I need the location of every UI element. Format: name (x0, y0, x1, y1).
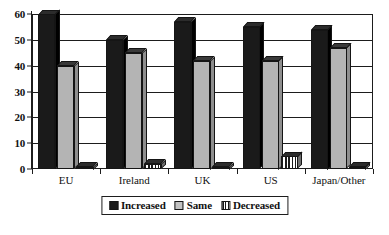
y-axis: 0102030405060 (0, 14, 32, 169)
bar-side-face (210, 56, 215, 169)
bar-side-face (278, 56, 283, 169)
y-tick-mark-30 (27, 91, 32, 92)
bar-group-us (237, 14, 305, 169)
x-tick-label-us: US (264, 174, 278, 186)
bar-front-face (281, 156, 298, 169)
bar-increased-uk (174, 22, 191, 169)
swatch-decreased-icon (221, 201, 230, 210)
bar-front-face (125, 53, 142, 169)
plot-area (32, 14, 373, 169)
y-tick-mark-60 (27, 14, 32, 15)
bar-front-face (243, 27, 260, 169)
y-tick-label-0: 0 (20, 163, 25, 175)
bar-same-ireland (125, 53, 142, 169)
y-tick-mark-50 (27, 39, 32, 40)
bars-layer (32, 14, 373, 169)
bar-top-face (281, 152, 303, 157)
bar-increased-japan-other (311, 30, 328, 170)
bar-front-face (330, 48, 347, 169)
bar-front-face (311, 30, 328, 170)
legend-label-same: Same (187, 199, 212, 211)
bar-group-ireland (100, 14, 168, 169)
legend-item-same[interactable]: Same (175, 199, 212, 211)
bar-same-japan-other (330, 48, 347, 169)
y-tick-label-10: 10 (14, 137, 25, 149)
bar-side-face (74, 61, 79, 169)
y-tick-label-50: 50 (14, 34, 25, 46)
y-tick-label-40: 40 (14, 60, 25, 72)
legend-item-increased[interactable]: Increased (109, 199, 166, 211)
bar-side-face (346, 43, 351, 169)
bar-same-eu (57, 66, 74, 169)
y-tick-label-60: 60 (14, 8, 25, 20)
bar-decreased-us (281, 156, 298, 169)
x-tick-label-ireland: Ireland (119, 174, 150, 186)
bar-group-uk (168, 14, 236, 169)
x-tick-mark-0 (32, 169, 33, 174)
chart-legend: IncreasedSameDecreased (101, 196, 288, 215)
bar-increased-ireland (106, 40, 123, 169)
x-tick-label-eu: EU (59, 174, 74, 186)
y-tick-mark-40 (27, 65, 32, 66)
bar-front-face (193, 61, 210, 170)
bar-increased-us (243, 27, 260, 169)
bar-front-face (38, 14, 55, 169)
y-tick-label-20: 20 (14, 111, 25, 123)
y-axis-spine (31, 11, 32, 169)
swatch-same-icon (175, 201, 184, 210)
x-tick-mark-5 (373, 169, 374, 174)
bar-group-japan-other (305, 14, 373, 169)
bar-same-us (262, 61, 279, 170)
legend-label-increased: Increased (121, 199, 166, 211)
x-axis: EUIrelandUKUSJapan/Other (32, 169, 373, 191)
y-tick-mark-20 (27, 117, 32, 118)
bar-group-eu (32, 14, 100, 169)
swatch-increased-icon (109, 201, 118, 210)
x-tick-mark-2 (168, 169, 169, 174)
bar-front-face (174, 22, 191, 169)
x-tick-label-uk: UK (195, 174, 211, 186)
bar-side-face (142, 48, 147, 169)
x-tick-label-japan-other: Japan/Other (312, 174, 365, 186)
bar-front-face (57, 66, 74, 169)
y-tick-mark-10 (27, 143, 32, 144)
legend-label-decreased: Decreased (233, 199, 280, 211)
bar-front-face (262, 61, 279, 170)
x-tick-mark-4 (305, 169, 306, 174)
y-tick-label-30: 30 (14, 86, 25, 98)
x-tick-mark-1 (100, 169, 101, 174)
bar-chart: 0102030405060 EUIrelandUKUSJapan/Other I… (0, 0, 389, 235)
bar-same-uk (193, 61, 210, 170)
x-tick-mark-3 (237, 169, 238, 174)
legend-item-decreased[interactable]: Decreased (221, 199, 280, 211)
bar-increased-eu (38, 14, 55, 169)
bar-front-face (106, 40, 123, 169)
